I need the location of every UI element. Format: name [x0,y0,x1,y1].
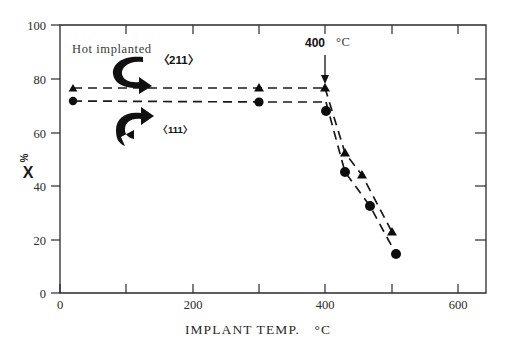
x-tick-label-200: 200 [184,298,203,312]
chart-svg: 0 200 400 600 100 80 60 40 20 0 IMPLANT … [0,0,513,357]
y-tick-label-20: 20 [34,234,47,248]
data-point [340,148,350,157]
y-axis-title-text: X [23,164,34,181]
x-tick-label-0: 0 [57,298,63,312]
y-tick-label-40: 40 [34,180,47,194]
y-tick-label-0: 0 [40,287,46,301]
hot-implanted-annotation: Hot implanted [72,42,152,56]
x-tick-label-600: 600 [449,298,468,312]
x-tick-label-400: 400 [316,298,335,312]
y-axis-title: X % [19,153,34,181]
svg-text:IMPLANT TEMP. °C: IMPLANT TEMP. °C [185,322,331,337]
x-axis-unit-text: °C [314,322,331,337]
x-axis-ticks [60,284,458,293]
series-111-callout: 〈111〉 [116,107,193,146]
y-tick-label-100: 100 [27,19,46,33]
data-point [391,249,401,259]
data-point [321,106,331,116]
temp-400-value: 400 [305,36,325,50]
chart-figure: 0 200 400 600 100 80 60 40 20 0 IMPLANT … [0,0,513,357]
data-point [387,227,397,236]
temperature-400-annotation: 400 °C [305,35,351,84]
data-point [69,97,77,105]
series-111-label: 〈111〉 [158,124,193,135]
series-211-markers [69,83,397,236]
series-211-label: 〈211〉 [158,53,199,66]
y-axis-unit-text: % [19,153,30,162]
data-point [365,201,375,211]
curved-arrow-up-icon [116,107,154,146]
y-tick-label-80: 80 [34,73,47,87]
x-axis-ticks-top [126,25,458,34]
y-axis-ticks-right [475,79,486,240]
y-tick-label-60: 60 [34,127,47,141]
series-211 [69,83,397,236]
data-point [340,167,350,177]
x-axis-title: IMPLANT TEMP. °C [185,322,331,337]
down-arrow-icon [321,55,329,84]
x-tick-labels: 0 200 400 600 [57,298,468,312]
x-axis-title-text: IMPLANT TEMP. [185,322,300,337]
y-axis-ticks [51,25,60,293]
temp-400-unit: °C [336,35,351,49]
y-tick-labels: 100 80 60 40 20 0 [27,19,46,301]
data-point [254,97,263,106]
